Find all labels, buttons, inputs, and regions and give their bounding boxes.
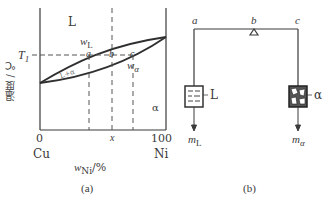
caption-b: (b)	[243, 183, 256, 194]
liquid-mass-label: mL	[188, 134, 201, 148]
x-tick-0: 0	[36, 133, 43, 144]
solidus-curve	[40, 37, 166, 83]
liquid-phase-label: L	[210, 89, 218, 101]
x-axis-label-sub: Ni	[81, 166, 92, 176]
mass-arrows	[192, 107, 301, 131]
lever-beam	[194, 29, 298, 86]
region-liquid-label: L	[68, 16, 76, 28]
temperature-mark: T1	[18, 49, 29, 64]
solid-mass-sub: α	[300, 138, 305, 148]
liquid-container-icon	[185, 86, 208, 107]
y-axis-label: 温度 / ℃	[6, 60, 16, 101]
x-tick-100: 100	[151, 133, 172, 144]
fulcrum-icon	[250, 29, 258, 35]
lever-point-a: a	[192, 15, 198, 26]
solidus-label: wα	[127, 60, 139, 74]
region-solid-label: α	[152, 103, 159, 113]
x-axis-label-unit: /%	[92, 161, 106, 174]
lever-point-b: b	[251, 15, 257, 26]
temperature-mark-sub: 1	[25, 54, 30, 64]
liquidus-curve	[40, 37, 166, 83]
liquid-mass-text: m	[188, 133, 196, 145]
point-c-label: c	[130, 49, 134, 59]
solid-phase-label: α	[314, 89, 322, 101]
liquid-mass-sub: L	[196, 138, 202, 148]
point-b-label: b	[109, 49, 114, 59]
left-component-label: Cu	[33, 148, 50, 160]
temperature-mark-text: T	[18, 48, 25, 62]
solidus-label-sub: α	[134, 64, 139, 74]
point-a-label: a	[86, 49, 91, 59]
right-component-label: Ni	[154, 148, 168, 160]
caption-a: (a)	[81, 183, 93, 194]
lever-point-c: c	[295, 15, 300, 26]
x-composition-label: x	[110, 133, 114, 143]
solid-mass-label: mα	[292, 134, 305, 148]
solid-container-icon	[289, 86, 312, 107]
diagram-canvas	[0, 0, 329, 203]
solid-mass-text: m	[292, 133, 300, 145]
x-axis-label: wNi/%	[74, 162, 106, 176]
